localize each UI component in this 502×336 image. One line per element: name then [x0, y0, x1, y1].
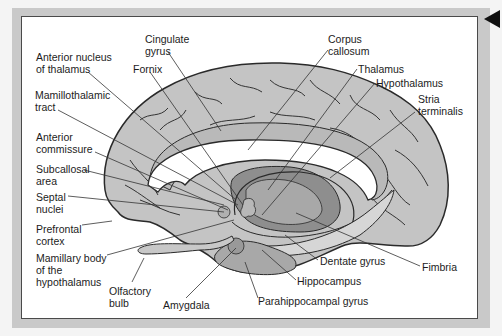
- label-fimbria: Fimbria: [422, 261, 457, 273]
- label-mamillothalamic-tract: Mamillothalamic tract: [35, 89, 110, 113]
- label-olfactory-bulb: Olfactory bulb: [109, 285, 151, 309]
- label-anterior-nucleus-of-thalamus: Anterior nucleus of thalamus: [36, 51, 112, 75]
- label-fornix: Fornix: [133, 63, 162, 75]
- label-hippocampus: Hippocampus: [297, 275, 361, 287]
- label-subcallosal-area: Subcallosal area: [36, 163, 90, 187]
- label-amygdala: Amygdala: [163, 299, 210, 311]
- label-anterior-commissure: Anterior commissure: [36, 131, 93, 155]
- label-corpus-callosum: Corpus callosum: [328, 33, 369, 57]
- label-thalamus: Thalamus: [358, 63, 404, 75]
- label-parahippocampal-gyrus: Parahippocampal gyrus: [258, 295, 368, 307]
- label-stria-terminalis: Stria terminalis: [418, 93, 463, 117]
- label-septal-nuclei: Septal nuclei: [36, 191, 66, 215]
- label-hypothalamus: Hypothalamus: [376, 77, 443, 89]
- label-cingulate-gyrus: Cingulate gyrus: [145, 33, 189, 57]
- label-prefrontal-cortex: Prefrontal cortex: [36, 223, 82, 247]
- label-dentate-gyrus: Dentate gyrus: [320, 255, 385, 267]
- label-mamillary-body: Mamillary body of the hypothalamus: [36, 252, 107, 288]
